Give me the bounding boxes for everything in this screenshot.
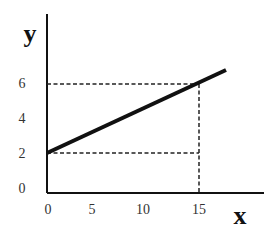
line-chart: 6 4 2 0 0 5 10 15 y x [0,0,279,234]
y-tick-2: 2 [19,146,26,161]
x-axis-label: x [234,201,247,230]
x-tick-0: 0 [45,202,52,217]
y-tick-6: 6 [19,76,26,91]
x-tick-10: 10 [136,202,150,217]
x-tick-15: 15 [192,202,206,217]
y-tick-4: 4 [19,111,26,126]
x-tick-5: 5 [89,202,96,217]
y-tick-0: 0 [19,181,26,196]
y-axis-label: y [24,19,37,48]
